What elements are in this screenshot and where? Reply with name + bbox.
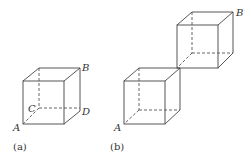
cube-a bbox=[23, 68, 80, 124]
caption-a: (a) bbox=[13, 141, 27, 152]
cube-b-upper bbox=[177, 12, 233, 68]
cube-b-lower bbox=[124, 68, 180, 124]
label-c: C bbox=[28, 103, 36, 114]
label-b-a: B bbox=[81, 62, 89, 73]
label-a-a: A bbox=[12, 122, 20, 133]
label-b-b: B bbox=[235, 7, 243, 18]
label-a-b: A bbox=[113, 122, 121, 133]
label-d: D bbox=[81, 106, 90, 117]
cube-diagram: B C D A (a) B A (b) bbox=[0, 0, 251, 160]
caption-b: (b) bbox=[110, 141, 124, 152]
